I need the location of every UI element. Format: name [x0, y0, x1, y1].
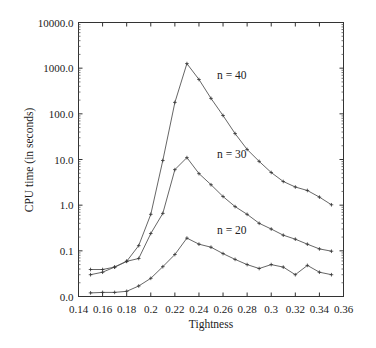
x-tick-label: 0.24 — [189, 303, 209, 315]
y-tick-label: 10.0 — [54, 154, 74, 166]
x-tick-label: 0.28 — [238, 303, 258, 315]
x-tick-label: 0.26 — [213, 303, 233, 315]
series-label: n = 30 — [217, 148, 247, 160]
x-tick-label: 0.16 — [93, 303, 113, 315]
y-tick-label: 100.0 — [49, 108, 74, 120]
x-tick-label: 0.32 — [286, 303, 305, 315]
plot-frame — [79, 23, 344, 297]
y-tick-label: 0.1 — [60, 245, 74, 257]
x-tick-label: 0.18 — [117, 303, 137, 315]
x-tick-label: 0.22 — [165, 303, 184, 315]
y-axis: 0.00.11.010.0100.01000.010000.0 — [38, 17, 344, 303]
line-chart: 0.140.160.180.20.220.240.260.280.30.320.… — [0, 0, 376, 348]
x-tick-label: 0.2 — [144, 303, 158, 315]
y-tick-label: 1000.0 — [43, 62, 74, 74]
x-axis: 0.140.160.180.20.220.240.260.280.30.320.… — [69, 23, 354, 315]
series-line-n30 — [91, 158, 332, 275]
y-tick-label: 0.0 — [60, 291, 74, 303]
x-tick-label: 0.14 — [69, 303, 89, 315]
series-label: n = 40 — [217, 69, 247, 81]
x-tick-label: 0.3 — [264, 303, 278, 315]
x-tick-label: 0.36 — [334, 303, 354, 315]
x-tick-label: 0.34 — [310, 303, 330, 315]
x-axis-title: Tightness — [189, 318, 234, 331]
y-tick-label: 1.0 — [60, 199, 74, 211]
y-axis-title: CPU time (in seconds) — [23, 108, 36, 213]
series-group — [89, 62, 334, 295]
y-tick-label: 10000.0 — [38, 17, 74, 29]
series-label: n = 20 — [217, 224, 247, 236]
